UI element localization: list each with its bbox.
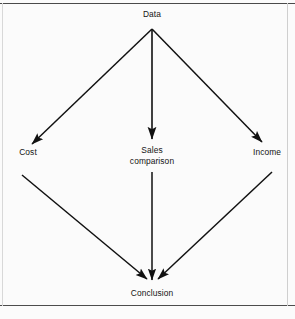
figure-container: Data Cost Sales comparison Income Conclu… (0, 0, 295, 319)
node-label-data: Data (124, 9, 180, 20)
edge-data-to-income (152, 29, 262, 142)
node-label-income: Income (240, 147, 294, 158)
node-label-sales-comparison: Sales comparison (119, 145, 185, 166)
node-label-sales-line2: comparison (130, 156, 174, 166)
node-label-conclusion: Conclusion (112, 288, 192, 299)
node-label-sales-line1: Sales (141, 145, 162, 155)
edge-cost-to-conclusion (22, 175, 147, 279)
edge-data-to-cost (32, 29, 152, 144)
edge-income-to-conclusion (158, 172, 272, 279)
node-label-cost: Cost (2, 147, 54, 158)
